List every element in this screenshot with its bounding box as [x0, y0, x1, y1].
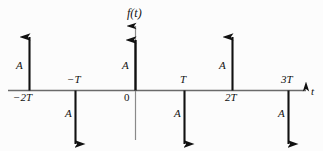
amplitude-label-mT: A [65, 108, 72, 119]
tick-label-minus-2T: −2T [13, 92, 32, 103]
tick-label-2T: 2T [225, 92, 237, 103]
tick-label-minus-T: −T [67, 74, 81, 85]
amplitude-label-T: A [174, 108, 181, 119]
tick-label-3T: 3T [281, 74, 293, 85]
amplitude-label-2T: A [219, 60, 226, 71]
tick-label-T: T [180, 74, 186, 85]
impulse-train-canvas [0, 0, 323, 151]
y-axis-label: f(t) [127, 7, 142, 19]
amplitude-label-m2T: A [16, 60, 23, 71]
amplitude-label-0: A [122, 60, 129, 71]
tick-label-origin: 0 [124, 92, 130, 103]
impulse-train-figure: f(t) t −2T −T 0 T 2T 3T A A A A A A [0, 0, 323, 151]
x-axis-label: t [311, 86, 314, 97]
amplitude-label-3T: A [278, 108, 285, 119]
